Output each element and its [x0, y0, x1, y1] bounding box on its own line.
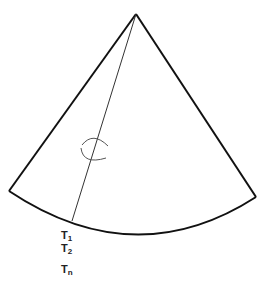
angle-marker-upper-arc: [82, 138, 108, 146]
label-tn-base: T: [61, 263, 68, 275]
label-t2-base: T: [61, 242, 68, 254]
label-t1-sub: 1: [68, 234, 72, 243]
label-tn-sub: n: [68, 268, 73, 277]
label-t1-base: T: [61, 229, 68, 241]
label-tn: Tn: [61, 264, 73, 277]
sector-right-edge: [136, 14, 256, 197]
sector-left-edge: [9, 14, 136, 191]
sector-diagram: [0, 0, 267, 287]
label-t2: T2: [61, 243, 72, 256]
radial-line: [72, 14, 136, 221]
sector-arc: [9, 191, 256, 235]
label-t2-sub: 2: [68, 247, 72, 256]
